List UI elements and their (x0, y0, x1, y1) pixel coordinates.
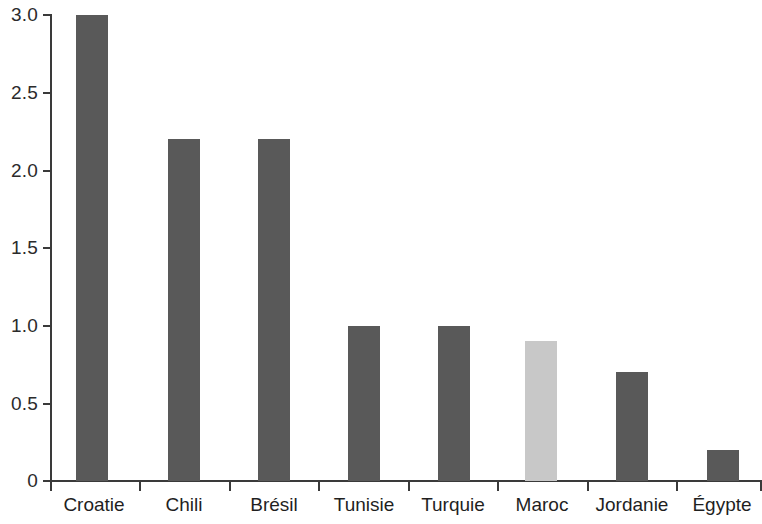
x-axis-label-croatie: Croatie (63, 495, 124, 516)
bar-maroc[interactable] (525, 341, 557, 481)
x-axis-label-jordanie: Jordanie (596, 495, 669, 516)
x-axis-tick-mark (139, 482, 141, 491)
bars-layer (0, 0, 762, 481)
x-axis-label-maroc: Maroc (516, 495, 569, 516)
x-axis-label-turquie: Turquie (421, 495, 485, 516)
x-axis-tick-mark (229, 482, 231, 491)
x-axis-tick-mark (676, 482, 678, 491)
bar-jordanie[interactable] (616, 372, 648, 481)
x-axis-tick-mark (50, 482, 52, 491)
bar-egypte[interactable] (707, 450, 739, 481)
x-axis-label-tunisie: Tunisie (334, 495, 395, 516)
x-axis-label-egypte: Égypte (692, 495, 751, 516)
x-axis-tick-mark (408, 482, 410, 491)
bar-bresil[interactable] (258, 139, 290, 481)
x-axis-label-bresil: Brésil (250, 495, 298, 516)
x-axis-tick-mark (760, 482, 762, 491)
bar-chili[interactable] (168, 139, 200, 481)
bar-tunisie[interactable] (348, 326, 380, 481)
x-axis-tick-mark (497, 482, 499, 491)
bar-chart: 3.0 2.5 2.0 1.5 1.0 0.5 0 Croatie Chili … (0, 0, 762, 524)
bar-croatie[interactable] (76, 15, 108, 481)
x-axis-label-chili: Chili (166, 495, 203, 516)
x-axis-tick-mark (318, 482, 320, 491)
x-axis-tick-mark (587, 482, 589, 491)
bar-turquie[interactable] (438, 326, 470, 481)
